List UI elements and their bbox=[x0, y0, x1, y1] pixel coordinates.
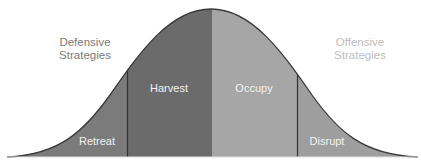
defensive-strategies-label: Defensive Strategies bbox=[30, 36, 140, 62]
offensive-label-line1: Offensive bbox=[305, 36, 415, 49]
harvest-label: Harvest bbox=[129, 82, 209, 95]
defensive-label-line1: Defensive bbox=[30, 36, 140, 49]
occupy-label: Occupy bbox=[214, 82, 294, 95]
bell-curve-diagram: Defensive Strategies Offensive Strategie… bbox=[0, 0, 421, 162]
offensive-strategies-label: Offensive Strategies bbox=[305, 36, 415, 62]
segment-retreat bbox=[0, 0, 127, 157]
offensive-label-line2: Strategies bbox=[305, 49, 415, 62]
disrupt-label: Disrupt bbox=[287, 135, 367, 148]
defensive-label-line2: Strategies bbox=[30, 49, 140, 62]
retreat-label: Retreat bbox=[57, 135, 137, 148]
segment-occupy bbox=[212, 0, 297, 157]
segment-harvest bbox=[127, 0, 212, 157]
segment-disrupt bbox=[297, 0, 421, 157]
